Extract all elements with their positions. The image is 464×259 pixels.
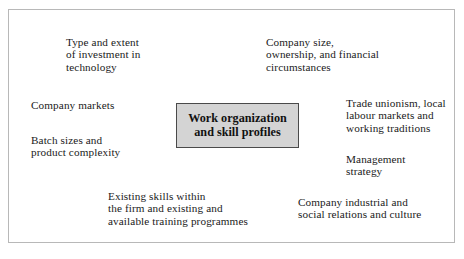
diagram-canvas: Type and extent of investment in technol…: [0, 0, 464, 259]
center-concept-box: Work organization and skill profiles: [176, 103, 299, 148]
factor-trade-unionism: Trade unionism, local labour markets and…: [346, 97, 446, 134]
factor-management-strategy: Management strategy: [346, 153, 406, 178]
factor-company-markets: Company markets: [31, 99, 114, 111]
factor-company-size-ownership: Company size, ownership, and financial c…: [266, 36, 379, 73]
factor-industrial-relations: Company industrial and social relations …: [298, 196, 421, 221]
factor-batch-sizes: Batch sizes and product complexity: [31, 134, 120, 159]
factor-investment-technology: Type and extent of investment in technol…: [66, 36, 141, 73]
diagram-frame: Type and extent of investment in technol…: [8, 9, 455, 243]
center-concept-label: Work organization and skill profiles: [188, 112, 287, 139]
factor-existing-skills: Existing skills within the firm and exis…: [108, 190, 248, 227]
